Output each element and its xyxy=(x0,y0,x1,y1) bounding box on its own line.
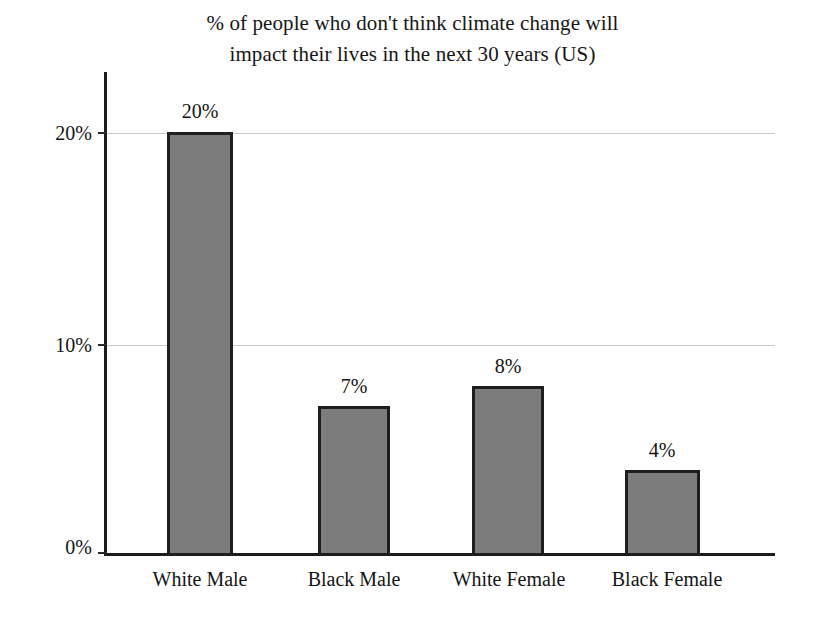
bar-value-black-male: 7% xyxy=(294,376,414,396)
y-tick-mark-0 xyxy=(98,552,107,554)
bar-chart: % of people who don't think climate chan… xyxy=(0,0,825,625)
x-tick-label-black-male: Black Male xyxy=(274,566,434,592)
bar-value-white-male: 20% xyxy=(140,101,260,121)
y-axis-labels: 20% 10% 0% xyxy=(0,0,92,625)
x-tick-label-white-male: White Male xyxy=(120,566,280,592)
bar-value-black-female: 4% xyxy=(602,440,722,460)
bar-white-male[interactable] xyxy=(167,132,233,556)
y-tick-label-0: 0% xyxy=(2,537,92,557)
y-axis-line xyxy=(104,72,107,556)
bar-black-female[interactable] xyxy=(625,470,700,556)
chart-title: % of people who don't think climate chan… xyxy=(0,8,825,70)
x-tick-label-black-female: Black Female xyxy=(580,566,754,592)
y-tick-label-10: 10% xyxy=(2,335,92,355)
y-tick-mark-10 xyxy=(98,344,107,346)
y-tick-label-20: 20% xyxy=(2,123,92,143)
bar-value-white-female: 8% xyxy=(448,356,568,376)
chart-title-line-1: % of people who don't think climate chan… xyxy=(0,8,825,39)
bar-black-male[interactable] xyxy=(318,406,390,556)
y-tick-mark-20 xyxy=(98,132,107,134)
chart-title-line-2: impact their lives in the next 30 years … xyxy=(0,39,825,70)
bar-white-female[interactable] xyxy=(472,386,544,556)
x-tick-label-white-female: White Female xyxy=(422,566,596,592)
